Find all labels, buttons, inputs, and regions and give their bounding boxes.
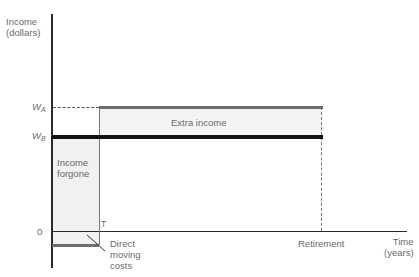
tick-wa: WA [32, 101, 46, 115]
extra-income-label: Extra income [171, 117, 226, 128]
direct-costs-pointer [85, 233, 109, 255]
wa-dashed-guide [53, 107, 99, 108]
income-forgone-label: Income forgone [57, 157, 89, 179]
x-axis-zero-line [51, 231, 407, 232]
tick-retirement: Retirement [298, 238, 344, 249]
tick-zero: 0 [37, 226, 42, 237]
retirement-dashed-line [321, 107, 322, 231]
x-axis-label: Time (years) [384, 236, 414, 258]
t-vertical-line [99, 107, 100, 245]
tick-t: T [101, 219, 106, 230]
wb-income-line [51, 135, 323, 139]
income-forgone-region [53, 139, 99, 231]
y-axis-label: Income (dollars) [6, 16, 40, 38]
y-axis [51, 14, 53, 268]
wa-income-line [99, 106, 323, 109]
tick-wb: WB [32, 130, 46, 144]
direct-moving-costs-label: Direct moving costs [110, 238, 141, 271]
